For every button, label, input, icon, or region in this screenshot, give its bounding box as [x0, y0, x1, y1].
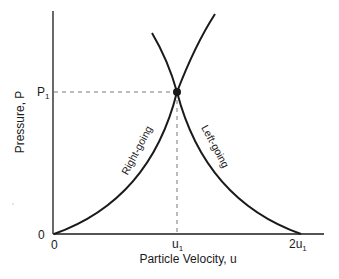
x-tick-u1: u1: [172, 237, 184, 253]
y-tick-0: 0: [38, 228, 45, 242]
p-u-diagram: Right-going Left-going 0 P1 0 u1 2u1 Par…: [0, 0, 339, 279]
x-tick-0: 0: [51, 238, 58, 252]
x-tick-2u1: 2u1: [289, 237, 307, 253]
y-axis-label: Pressure, P: [13, 91, 27, 154]
right-going-label: Right-going: [119, 123, 155, 176]
y-tick-p1: P1: [37, 85, 50, 101]
left-going-curve: [152, 33, 301, 234]
x-axis-label: Particle Velocity, u: [139, 252, 236, 266]
stray-dot: [12, 203, 13, 204]
left-going-label: Left-going: [199, 123, 232, 170]
right-going-curve: [54, 14, 215, 234]
intersection-point: [173, 88, 181, 96]
